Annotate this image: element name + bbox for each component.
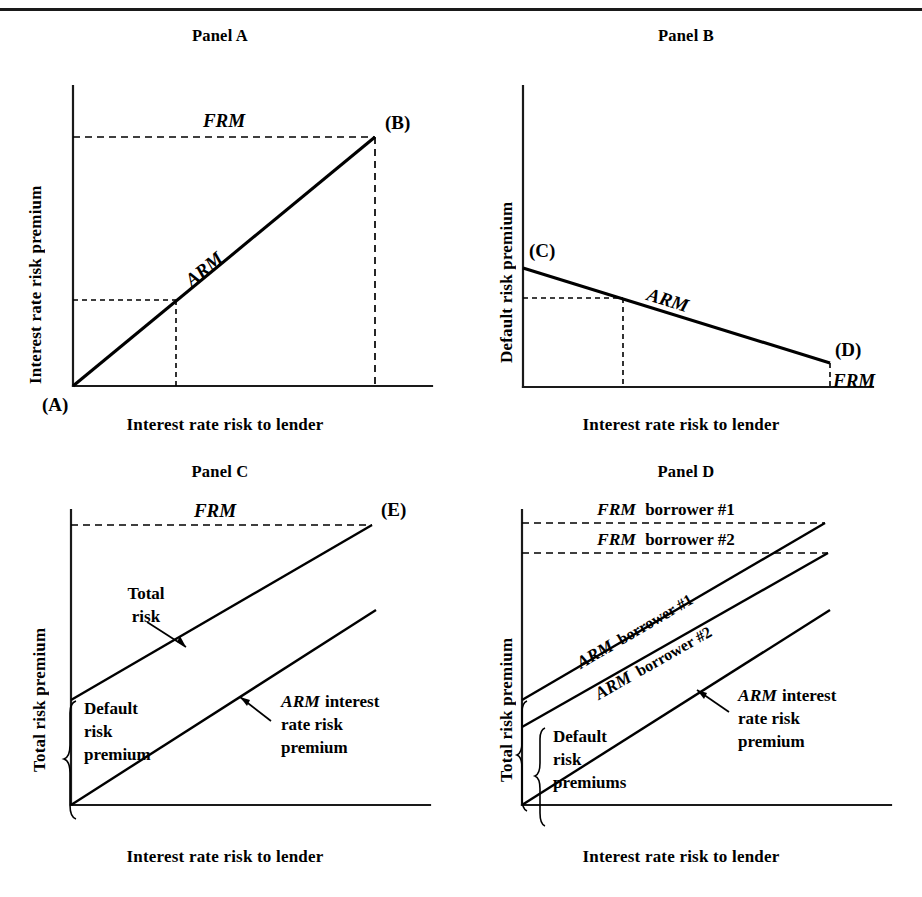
panel-b-arm-line [523, 268, 830, 363]
panel-d-plot: FRM borrower #1 FRM borrower #2 ARM borr… [461, 462, 922, 862]
panel-c-arm-label-rest: interest [325, 692, 380, 711]
panel-c: Panel C Total risk premium FRM (E) Total… [0, 462, 461, 897]
panel-b-point-d: (D) [835, 339, 861, 361]
panel-d-arm2-label: ARM borrower #2 [590, 621, 715, 704]
panel-a: Panel A Interest rate risk premium FRM (… [0, 26, 461, 446]
header-rule [0, 8, 922, 11]
panel-a-xlabel: Interest rate risk to lender [0, 415, 450, 435]
panel-d-frm1-rest: borrower #1 [641, 500, 735, 519]
panel-d-default-label-3: premiums [553, 773, 627, 792]
panel-c-arm-label-italic: ARM [280, 691, 321, 711]
panel-c-arm-label-line4: premium [281, 738, 348, 757]
panel-c-arm-label-line1: ARMinterest [280, 691, 380, 711]
panel-b-xlabel: Interest rate risk to lender [461, 415, 901, 435]
panel-d-frm2-italic: FRM [596, 529, 637, 549]
panel-d-default-label-1: Default [553, 727, 607, 746]
panel-c-default-label-2: risk [84, 722, 113, 741]
panel-c-total-risk-label-2: risk [132, 607, 161, 626]
panel-c-plot: FRM (E) Total risk Default risk premium … [0, 462, 461, 862]
panel-b-frm-label: FRM [832, 370, 876, 391]
panel-d-arm-label-line3: rate risk [738, 709, 800, 728]
panel-c-point-e: (E) [381, 499, 406, 521]
panel-d-frm1-label: FRM borrower #1 [596, 499, 735, 519]
panel-d: Panel D Total risk premium FRM borrower … [461, 462, 922, 897]
panel-d-frm2-rest: borrower #2 [641, 530, 735, 549]
panel-b-plot: (C) (D) FRM ARM [461, 26, 922, 426]
panel-d-arm1-italic: ARM [572, 635, 618, 673]
panel-c-total-risk-line [71, 525, 372, 700]
panel-c-default-label-1: Default [84, 699, 138, 718]
panel-a-arm-label: ARM [180, 247, 228, 291]
panel-d-arm-label-italic: ARM [737, 685, 778, 705]
panel-d-default-brace-2 [535, 728, 545, 826]
panel-a-frm-label: FRM [202, 110, 246, 131]
panel-d-arm1-label: ARM borrower #1 [572, 589, 696, 673]
panel-d-xlabel: Interest rate risk to lender [461, 847, 901, 867]
panel-c-xlabel: Interest rate risk to lender [0, 847, 450, 867]
panel-d-arm-label-rest: interest [782, 686, 837, 705]
panel-d-arm-label-line1: ARMinterest [737, 685, 837, 705]
panel-a-point-b: (B) [385, 112, 410, 134]
panel-c-default-label-3: premium [84, 745, 151, 764]
panel-d-frm1-italic: FRM [596, 499, 637, 519]
panel-c-arm-label-line3: rate risk [281, 715, 343, 734]
panel-b-point-c: (C) [529, 240, 555, 262]
panel-a-point-a: (A) [42, 394, 68, 416]
panel-a-plot: FRM (B) (A) ARM [0, 26, 461, 426]
figure-root: Panel A Interest rate risk premium FRM (… [0, 0, 922, 897]
panel-d-frm2-label: FRM borrower #2 [596, 529, 735, 549]
panel-c-total-risk-label-1: Total [127, 584, 164, 603]
panel-b: Panel B Default risk premium (C) (D) FRM… [461, 26, 922, 446]
panel-c-frm-label: FRM [193, 500, 237, 521]
panel-d-arm-label-line4: premium [738, 732, 805, 751]
clipped-page-header [180, 0, 740, 6]
panel-d-arm2-italic: ARM [590, 666, 636, 704]
panel-d-default-label-2: risk [553, 750, 582, 769]
